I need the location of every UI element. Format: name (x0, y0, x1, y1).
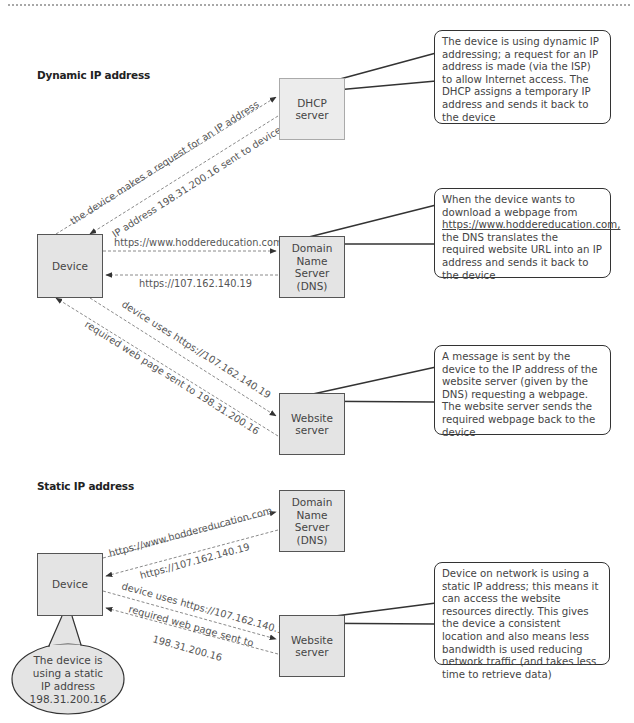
dynamic-section-title: Dynamic IP address (37, 69, 150, 81)
dynamic-website-server-node: Website server (279, 393, 345, 455)
dynamic-dns-node: Domain Name Server (DNS) (279, 236, 345, 298)
callout-dhcp: The device is using dynamic IP addressin… (434, 30, 611, 124)
callout-dns: When the device wants to download a webp… (434, 188, 611, 278)
arrow-label-ip-from-dns: https://107.162.140.19 (139, 278, 252, 289)
hodder-link[interactable]: https://www.hoddereducation.com, (442, 219, 620, 230)
node-label: Website server (291, 412, 333, 437)
node-label: Device (52, 578, 88, 591)
static-device-node: Device (37, 553, 103, 616)
static-arrow-label-ip-from-dns: https://107.162.140.19 (139, 541, 251, 581)
callout-text: When the device wants to download a webp… (442, 194, 577, 218)
node-label: Device (52, 260, 88, 273)
static-section-title: Static IP address (37, 480, 134, 492)
callout-static-website: Device on network is using a static IP a… (434, 562, 610, 665)
static-dns-node: Domain Name Server (DNS) (279, 490, 345, 552)
callout-text: A message is sent by the device to the I… (442, 351, 598, 438)
node-label: Domain Name Server (DNS) (292, 242, 333, 292)
dynamic-device-node: Device (37, 234, 103, 298)
dhcp-server-node: DHCP server (279, 78, 345, 140)
callout-text: The device is using dynamic IP addressin… (442, 36, 599, 123)
callout-text: the DNS translates the required website … (442, 232, 602, 281)
node-label: Website server (291, 634, 333, 659)
static-ip-bubble-text: The device is using a static IP address … (14, 654, 122, 706)
node-label: DHCP server (295, 97, 328, 122)
static-arrow-label-page-sent-2: 198.31.200.16 (151, 633, 223, 663)
arrow-label-url-to-dns: https://www.hoddereducation.com (114, 237, 283, 248)
callout-website: A message is sent by the device to the I… (434, 345, 611, 435)
callout-text: Device on network is using a static IP a… (442, 568, 598, 680)
static-website-server-node: Website server (279, 615, 345, 677)
node-label: Domain Name Server (DNS) (292, 496, 333, 546)
